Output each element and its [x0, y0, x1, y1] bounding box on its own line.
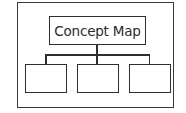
child-node-2	[77, 64, 119, 93]
root-node-label: Concept Map	[54, 23, 140, 39]
child-node-3	[129, 64, 171, 93]
horizontal-bus-connector	[45, 54, 150, 56]
right-drop-connector	[149, 54, 151, 64]
child-node-1	[25, 64, 67, 93]
root-node: Concept Map	[49, 16, 146, 45]
left-drop-connector	[45, 54, 47, 64]
